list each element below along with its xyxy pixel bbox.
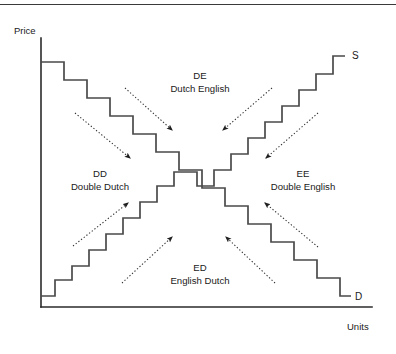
supply-demand-step-diagram: Price Units S D DE Dutch English DD Doub… <box>0 0 396 354</box>
arrow-bottom-left <box>122 237 172 283</box>
arrow-left-upper <box>75 113 130 158</box>
arrow-top-left <box>125 88 172 130</box>
zone-ed-code: ED <box>193 262 206 273</box>
arrow-right-lower <box>265 203 318 247</box>
zone-de-name: Dutch English <box>170 83 229 94</box>
zone-label-de: DE Dutch English <box>170 70 229 94</box>
y-axis-label: Price <box>14 25 36 36</box>
arrow-left-lower <box>73 203 128 246</box>
zone-ee-code: EE <box>297 168 310 179</box>
zone-dd-name: Double Dutch <box>71 181 129 192</box>
zone-label-dd: DD Double Dutch <box>71 168 129 192</box>
demand-curve-label: D <box>355 291 362 302</box>
arrow-bottom-right <box>226 237 275 283</box>
zone-ed-name: English Dutch <box>170 275 229 286</box>
zone-label-ed: ED English Dutch <box>170 262 229 286</box>
zone-de-code: DE <box>193 70 206 81</box>
x-axis-label: Units <box>347 321 369 332</box>
figure-container: Price Units S D DE Dutch English DD Doub… <box>0 0 396 354</box>
arrow-right-upper <box>266 113 318 158</box>
supply-curve-label: S <box>352 50 359 61</box>
zone-ee-name: Double English <box>271 181 336 192</box>
zone-dd-code: DD <box>93 168 107 179</box>
zone-label-ee: EE Double English <box>271 168 336 192</box>
demand-curve <box>41 62 351 296</box>
